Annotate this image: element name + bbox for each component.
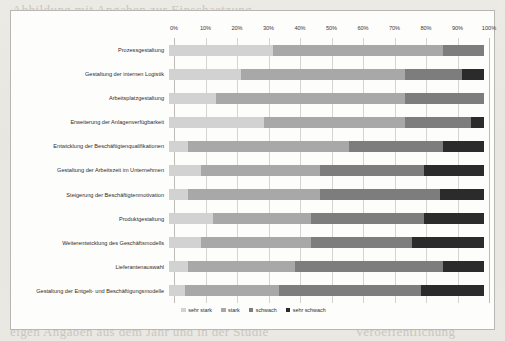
bar-segment	[169, 93, 216, 104]
bar-row: Lieferantenauswahl	[11, 255, 496, 279]
category-label: Weiterentwicklung des Geschäftsmodells	[11, 240, 169, 246]
stacked-bar	[169, 141, 484, 152]
x-tick-label: 0%	[170, 25, 178, 31]
stacked-bar	[169, 165, 484, 176]
bar-segment	[295, 261, 443, 272]
bar-row: Erweiterung der Anlagenverfügbarkeit	[11, 110, 496, 134]
legend-label: sehr stark	[188, 307, 212, 313]
legend-item[interactable]: schwach	[249, 307, 277, 313]
bar-segment	[424, 165, 484, 176]
stacked-bar	[169, 117, 484, 128]
bar-segment	[424, 213, 484, 224]
legend-swatch-icon	[249, 308, 254, 313]
bar-segment	[471, 117, 484, 128]
legend-swatch-icon	[221, 308, 226, 313]
bar-segment	[188, 189, 320, 200]
x-tick-label: 90%	[452, 25, 463, 31]
bar-segment	[462, 69, 484, 80]
bar-row: Weiterentwicklung des Geschäftsmodells	[11, 231, 496, 255]
x-tick-label: 10%	[200, 25, 211, 31]
bar-segment	[264, 117, 406, 128]
category-label: Gestaltung der internen Logistik	[11, 71, 169, 77]
stacked-bar	[169, 213, 484, 224]
chart-figure: 0%10%20%30%40%50%60%70%80%90%100% Prozes…	[10, 10, 495, 330]
bar-segment	[169, 213, 213, 224]
bar-segment	[169, 237, 201, 248]
bar-segment	[185, 285, 280, 296]
bar-row: Prozessgestaltung	[11, 38, 496, 62]
legend-item[interactable]: stark	[221, 307, 240, 313]
bar-segment	[169, 117, 264, 128]
bar-row: Produktgestaltung	[11, 207, 496, 231]
bar-segment	[405, 69, 462, 80]
bar-segment	[320, 165, 424, 176]
x-tick-label: 20%	[231, 25, 242, 31]
category-label: Lieferantenauswahl	[11, 264, 169, 270]
bar-segment	[405, 93, 484, 104]
x-tick-label: 50%	[326, 25, 337, 31]
bar-segment	[443, 45, 484, 56]
bar-segment	[273, 45, 443, 56]
x-tick-label: 80%	[420, 25, 431, 31]
bar-segment	[311, 237, 412, 248]
bar-segment	[188, 141, 349, 152]
bar-row: Gestaltung der Arbeitszeit im Unternehme…	[11, 158, 496, 182]
bar-segment	[169, 45, 273, 56]
legend-item[interactable]: sehr schwach	[286, 307, 326, 313]
category-label: Erweiterung der Anlagenverfügbarkeit	[11, 119, 169, 125]
legend-swatch-icon	[181, 308, 186, 313]
x-tick-label: 100%	[482, 25, 496, 31]
bar-row: Entwicklung der Beschäftigtenqualifikati…	[11, 134, 496, 158]
bar-segment	[311, 213, 424, 224]
category-label: Produktgestaltung	[11, 216, 169, 222]
category-label: Gestaltung der Entgelt- und Beschäftigun…	[11, 288, 169, 294]
bar-segment	[201, 165, 321, 176]
x-tick-label: 40%	[294, 25, 305, 31]
legend-swatch-icon	[286, 308, 291, 313]
bar-segment	[169, 165, 201, 176]
bar-segment	[169, 285, 185, 296]
bar-segment	[443, 141, 484, 152]
stacked-bar	[169, 261, 484, 272]
legend-label: schwach	[256, 307, 277, 313]
bar-segment	[440, 189, 484, 200]
bar-segment	[169, 261, 188, 272]
x-tick-label: 30%	[263, 25, 274, 31]
x-axis-tick-labels: 0%10%20%30%40%50%60%70%80%90%100%	[174, 25, 489, 37]
bar-segment	[169, 189, 188, 200]
x-tick-label: 60%	[357, 25, 368, 31]
bar-row: Gestaltung der internen Logistik	[11, 62, 496, 86]
stacked-bar	[169, 45, 484, 56]
bar-segment	[421, 285, 484, 296]
bar-segment	[201, 237, 311, 248]
category-label: Gestaltung der Arbeitszeit im Unternehme…	[11, 167, 169, 173]
bar-segment	[169, 69, 241, 80]
bar-rows: ProzessgestaltungGestaltung der internen…	[11, 38, 496, 303]
legend-item[interactable]: sehr stark	[181, 307, 212, 313]
bar-segment	[412, 237, 484, 248]
bar-segment	[216, 93, 405, 104]
stacked-bar	[169, 237, 484, 248]
stacked-bar	[169, 285, 484, 296]
bar-segment	[320, 189, 440, 200]
legend-label: stark	[228, 307, 240, 313]
bar-segment	[241, 69, 405, 80]
stacked-bar	[169, 69, 484, 80]
bar-segment	[188, 261, 295, 272]
bar-row: Arbeitsplatzgestaltung	[11, 86, 496, 110]
bar-row: Steigerung der Beschäftigtenmotivation	[11, 183, 496, 207]
bar-segment	[405, 117, 471, 128]
bar-segment	[443, 261, 484, 272]
x-tick-label: 70%	[389, 25, 400, 31]
chart-legend: sehr starkstarkschwachsehr schwach	[11, 307, 496, 313]
bar-row: Gestaltung der Entgelt- und Beschäftigun…	[11, 279, 496, 303]
plot-area: 0%10%20%30%40%50%60%70%80%90%100% Prozes…	[11, 11, 494, 329]
bar-segment	[279, 285, 421, 296]
category-label: Steigerung der Beschäftigtenmotivation	[11, 192, 169, 198]
bar-segment	[213, 213, 311, 224]
category-label: Arbeitsplatzgestaltung	[11, 95, 169, 101]
legend-label: sehr schwach	[293, 307, 326, 313]
bar-segment	[169, 141, 188, 152]
stacked-bar	[169, 93, 484, 104]
category-label: Entwicklung der Beschäftigtenqualifikati…	[11, 143, 169, 149]
